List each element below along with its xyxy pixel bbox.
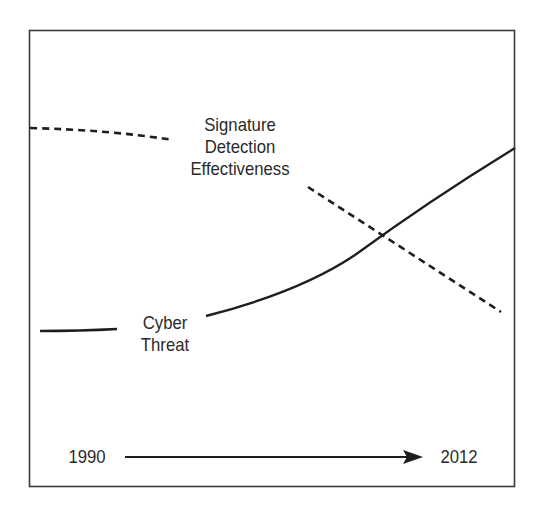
label-line: Threat [130, 334, 200, 356]
label-line: Cyber [130, 312, 200, 334]
signature-detection-label: Signature Detection Effectiveness [178, 114, 301, 180]
frame [30, 31, 515, 487]
end-year-label: 2012 [437, 446, 481, 468]
diagram-canvas [0, 0, 544, 507]
label-line: Effectiveness [178, 158, 301, 180]
cyber-threat-line-left [40, 329, 117, 331]
signature-detection-line-lower [308, 187, 501, 312]
label-line: Detection [178, 136, 301, 158]
cyber-threat-label: Cyber Threat [130, 312, 200, 356]
start-year-label: 1990 [65, 446, 109, 468]
label-line: Signature [178, 114, 301, 136]
signature-detection-line [30, 128, 173, 140]
